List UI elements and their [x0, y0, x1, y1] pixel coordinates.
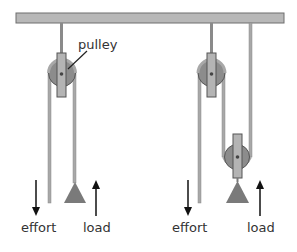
load-arrow-up-icon	[92, 180, 100, 216]
right-effort-label: effort	[172, 221, 207, 234]
pulley-label: pulley	[78, 38, 117, 51]
effort-rope	[48, 73, 51, 203]
connecting-rope	[222, 73, 225, 157]
pulley-axle	[60, 72, 64, 76]
load-weight	[226, 181, 249, 203]
right-load-label: load	[247, 221, 275, 234]
load-weight	[64, 182, 86, 203]
movable-pulley-axle	[236, 155, 240, 159]
load-rope	[73, 73, 76, 183]
hanger-rod	[60, 23, 63, 54]
left-effort-label: effort	[21, 221, 56, 234]
effort-arrow-down-icon	[184, 180, 192, 216]
effort-arrow-down-icon	[32, 180, 40, 216]
ceiling-beam	[16, 13, 284, 23]
left-load-label: load	[83, 221, 111, 234]
compound-pulley-system	[184, 23, 264, 216]
effort-rope	[198, 73, 201, 203]
pulley-diagram	[0, 0, 297, 252]
hanger-rod	[210, 23, 213, 54]
fixed-pulley-axle	[210, 72, 214, 76]
load-arrow-up-icon	[256, 180, 264, 216]
anchor-rope	[249, 23, 252, 157]
pulley-pointer-line	[68, 51, 87, 69]
